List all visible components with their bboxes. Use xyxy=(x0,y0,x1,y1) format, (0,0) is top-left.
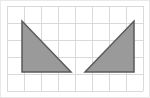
triangles-grid-figure xyxy=(0,0,150,98)
figure-container xyxy=(0,0,150,98)
